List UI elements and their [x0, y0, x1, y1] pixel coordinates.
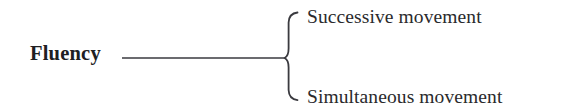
branch-label-simultaneous-movement: Simultaneous movement [307, 87, 502, 107]
fluency-diagram: Fluency Successive movement Simultaneous… [0, 0, 566, 112]
curly-brace-icon [285, 13, 298, 101]
branch-label-successive-movement: Successive movement [307, 7, 482, 27]
root-node-label: Fluency [30, 43, 101, 64]
